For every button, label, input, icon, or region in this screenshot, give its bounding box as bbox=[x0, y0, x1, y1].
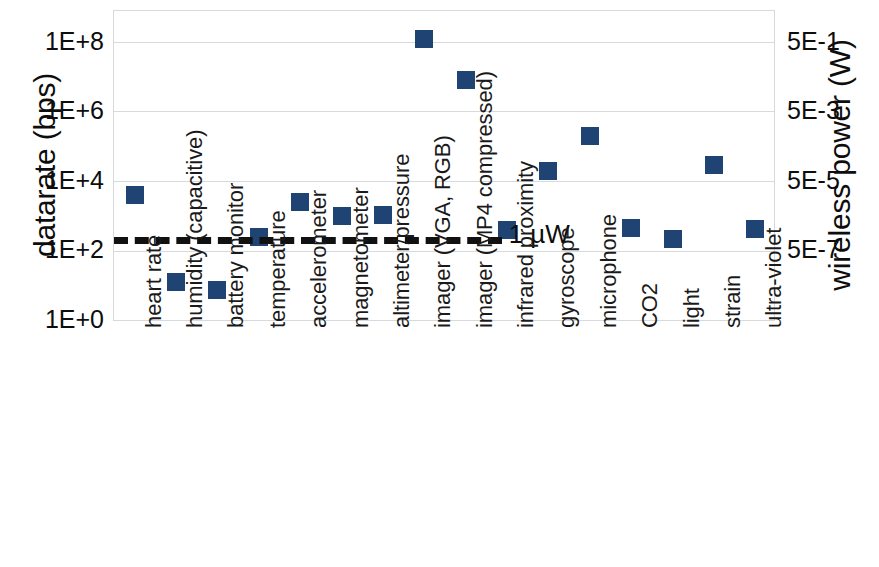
data-point bbox=[664, 230, 682, 248]
x-axis-label-gyroscope: gyroscope bbox=[556, 227, 578, 328]
x-axis-label-humidity-capacitive: humidity (capacitive) bbox=[184, 130, 206, 328]
data-point bbox=[539, 162, 557, 180]
x-axis-label-battery-monitor: battery monitor bbox=[225, 183, 247, 328]
x-axis-label-imager-mp4-compressed: imager (MP4 compressed) bbox=[474, 71, 496, 328]
y-left-tick-1e6: 1E+6 bbox=[8, 98, 104, 123]
y-right-tick-5em7: 5E-7 bbox=[787, 237, 879, 262]
data-point bbox=[622, 219, 640, 237]
data-point bbox=[581, 127, 599, 145]
x-axis-label-ultra-violet: ultra-violet bbox=[763, 228, 785, 328]
x-axis-label-temperature: temperature bbox=[267, 210, 289, 328]
data-point bbox=[705, 156, 723, 174]
x-axis-label-magnetometer: magnetometer bbox=[350, 187, 372, 328]
y-left-tick-1e2: 1E+2 bbox=[8, 237, 104, 262]
y-axis-left-title: datarate (bps) bbox=[28, 25, 62, 305]
data-point bbox=[415, 30, 433, 48]
y-right-tick-5em3: 5E-3 bbox=[787, 98, 879, 123]
x-axis-label-strain: strain bbox=[722, 275, 744, 328]
x-axis-label-altimeter-pressure: altimeter/pressure bbox=[391, 154, 413, 328]
x-axis-label-accelerometer: accelerometer bbox=[308, 190, 330, 328]
y-right-tick-5em1: 5E-1 bbox=[787, 29, 879, 54]
y-left-tick-1e4: 1E+4 bbox=[8, 168, 104, 193]
y-right-tick-5em5: 5E-5 bbox=[787, 168, 879, 193]
x-axis-label-infrared-proximity: infrared proximity bbox=[515, 161, 537, 328]
y-left-tick-1e8: 1E+8 bbox=[8, 29, 104, 54]
x-axis-label-co2: CO2 bbox=[639, 283, 661, 328]
y-axis-right-title: wireless power (W) bbox=[823, 20, 857, 310]
x-axis-label-microphone: microphone bbox=[598, 214, 620, 328]
x-axis-label-heart-rate: heart rate bbox=[143, 235, 165, 328]
data-point bbox=[126, 186, 144, 204]
chart-figure: datarate (bps) wireless power (W) sensor… bbox=[0, 0, 879, 567]
gridline-1e6 bbox=[114, 111, 774, 112]
y-left-tick-1e0: 1E+0 bbox=[8, 307, 104, 332]
x-axis-label-imager-vga-rgb: imager (VGA, RGB) bbox=[432, 135, 454, 328]
x-axis-label-light: light bbox=[681, 288, 703, 328]
gridline-1e8 bbox=[114, 42, 774, 43]
